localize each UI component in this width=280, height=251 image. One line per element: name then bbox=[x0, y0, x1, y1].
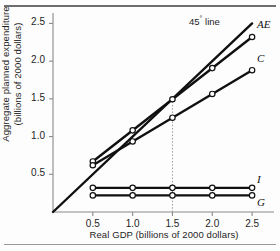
x-tick-label: 2.0 bbox=[197, 218, 227, 229]
forty-five-degree-line bbox=[53, 23, 252, 212]
data-point-marker bbox=[170, 193, 175, 198]
y-tick-label: 1.5 bbox=[19, 92, 45, 103]
data-point-marker bbox=[130, 193, 135, 198]
y-tick-label: 1.0 bbox=[19, 130, 45, 141]
data-point-marker bbox=[249, 185, 254, 190]
x-tick-label: 2.5 bbox=[237, 218, 267, 229]
data-point-marker bbox=[249, 34, 254, 39]
data-series-group bbox=[90, 34, 255, 198]
forty-five-degree-line-annotation: 45° line bbox=[189, 15, 220, 27]
y-axis-label-line-1: Aggregate planned expenditure bbox=[0, 0, 12, 164]
x-tick-label: 0.5 bbox=[78, 218, 108, 229]
x-axis-label: Real GDP (billions of 2000 dollars) bbox=[53, 229, 275, 240]
series-C bbox=[90, 67, 255, 167]
data-point-marker bbox=[170, 97, 175, 102]
y-tick-label: 0.5 bbox=[19, 167, 45, 178]
series-label-G: G bbox=[257, 196, 265, 208]
annotation-suffix: line bbox=[202, 16, 219, 27]
data-point-marker bbox=[90, 193, 95, 198]
data-point-marker bbox=[210, 193, 215, 198]
series-I bbox=[90, 185, 255, 190]
data-point-marker bbox=[130, 185, 135, 190]
data-point-marker bbox=[249, 193, 254, 198]
data-point-marker bbox=[90, 185, 95, 190]
data-point-marker bbox=[90, 163, 95, 168]
series-G bbox=[90, 193, 255, 198]
data-point-marker bbox=[170, 185, 175, 190]
y-tick-label: 2.5 bbox=[19, 16, 45, 27]
axes bbox=[49, 13, 274, 216]
forty-five-degree-segment bbox=[53, 23, 252, 212]
data-point-marker bbox=[170, 115, 175, 120]
data-point-marker bbox=[249, 67, 254, 72]
data-point-marker bbox=[210, 65, 215, 70]
data-point-marker bbox=[210, 91, 215, 96]
series-label-I: I bbox=[257, 173, 261, 185]
x-tick-label: 1.0 bbox=[118, 218, 148, 229]
annotation-number: 45 bbox=[189, 16, 200, 27]
plot-area bbox=[0, 0, 280, 251]
data-point-marker bbox=[130, 128, 135, 133]
data-point-marker bbox=[130, 139, 135, 144]
series-label-AE: AE bbox=[257, 18, 270, 30]
y-tick-label: 2.0 bbox=[19, 54, 45, 65]
data-point-marker bbox=[210, 185, 215, 190]
series-label-C: C bbox=[257, 52, 264, 64]
x-tick-label: 1.5 bbox=[157, 218, 187, 229]
chart-figure: Aggregate planned expenditure (billions … bbox=[0, 0, 280, 251]
